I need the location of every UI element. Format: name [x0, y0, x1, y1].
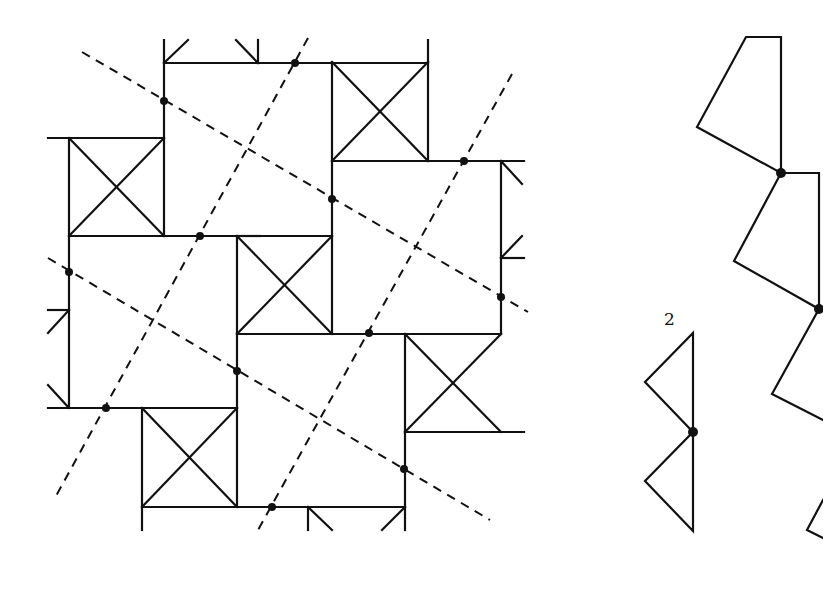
quadrilateral-chain [697, 37, 823, 538]
tiling-diagram: 2 [0, 0, 823, 598]
x-square [405, 334, 501, 432]
x-square [237, 236, 332, 334]
dashed-axes [48, 38, 528, 530]
x-square [332, 62, 428, 161]
bow-tie-triangles [645, 333, 698, 531]
figure-label: 2 [664, 309, 675, 329]
x-square [69, 138, 164, 236]
square-tiling [48, 40, 524, 530]
x-square [142, 408, 237, 507]
